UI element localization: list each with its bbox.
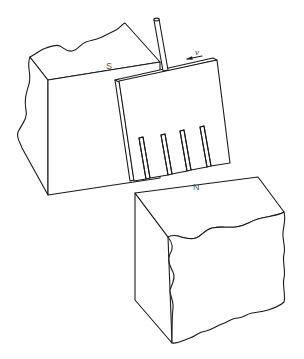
north-pole-magnet: N	[135, 177, 285, 343]
velocity-arrow: v	[186, 47, 202, 60]
south-pole-label: S	[106, 61, 112, 71]
north-pole-label: N	[193, 182, 200, 192]
plate-front-face	[119, 60, 230, 181]
south-magnet-side-face	[17, 57, 48, 195]
eddy-current-diagram: S v N	[0, 0, 304, 359]
rod-end	[154, 18, 159, 21]
slotted-plate	[115, 58, 230, 181]
velocity-arrow-head-icon	[186, 56, 193, 60]
velocity-label: v	[195, 47, 199, 57]
